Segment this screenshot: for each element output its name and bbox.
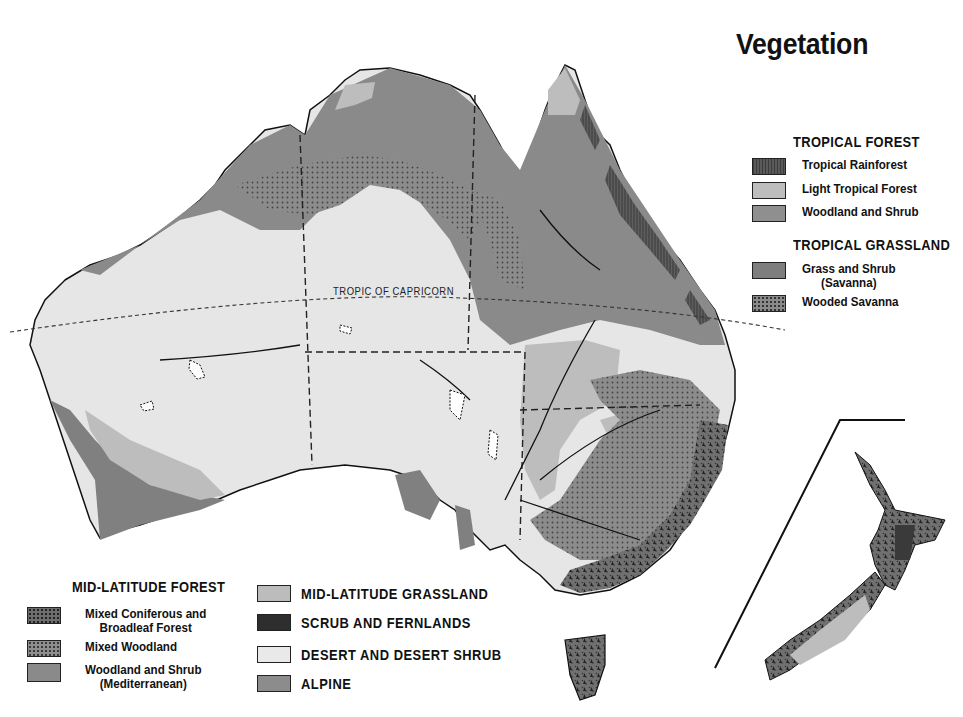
legend-label: SCRUB AND FERNLANDS xyxy=(301,614,471,631)
new-zealand-north-island xyxy=(855,452,945,590)
tropic-of-capricorn-label: TROPIC OF CAPRICORN xyxy=(333,285,454,297)
legend-item-alpine: ALPINE xyxy=(257,675,360,692)
legend-heading-tropical-forest: TROPICAL FOREST xyxy=(793,133,920,150)
swatch-tropical-rainforest xyxy=(752,158,786,175)
legend-label: Mixed Woodland xyxy=(85,640,177,654)
swatch-desert-and-desert-shrub xyxy=(257,646,291,663)
legend-label: Light Tropical Forest xyxy=(802,182,917,196)
swatch-woodland-shrub-mediterranean xyxy=(27,663,61,682)
swatch-mixed-woodland xyxy=(27,640,61,657)
map-title: Vegetation xyxy=(736,28,868,61)
legend-label: Woodland and Shrub xyxy=(802,205,919,219)
legend-label: DESERT AND DESERT SHRUB xyxy=(301,646,502,663)
swatch-alpine xyxy=(257,675,291,692)
legend-item-mixed-coniferous: Mixed Coniferous andBroadleaf Forest xyxy=(27,607,226,635)
new-zealand-south-island xyxy=(765,572,885,680)
legend-item-woodland-and-shrub: Woodland and Shrub xyxy=(752,205,938,222)
swatch-light-tropical-forest xyxy=(752,182,786,199)
swatch-mid-latitude-grassland xyxy=(257,585,291,602)
legend-item-desert-and-desert-shrub: DESERT AND DESERT SHRUB xyxy=(257,646,534,663)
legend-label: Grass and Shrub(Savanna) xyxy=(802,262,896,290)
legend-heading-tropical-grassland: TROPICAL GRASSLAND xyxy=(793,236,950,253)
legend-label: Tropical Rainforest xyxy=(802,158,907,172)
legend-item-mixed-woodland: Mixed Woodland xyxy=(27,640,192,657)
legend-heading-mid-latitude-forest: MID-LATITUDE FOREST xyxy=(72,578,225,595)
legend-item-woodland-shrub-mediterranean: Woodland and Shrub(Mediterranean) xyxy=(27,663,221,691)
swatch-grass-and-shrub xyxy=(752,262,786,279)
legend-item-grass-and-shrub: Grass and Shrub(Savanna) xyxy=(752,262,911,290)
legend-label: Wooded Savanna xyxy=(802,295,899,309)
legend-item-mid-latitude-grassland: MID-LATITUDE GRASSLAND xyxy=(257,585,519,602)
swatch-woodland-and-shrub xyxy=(752,205,786,222)
legend-item-tropical-rainforest: Tropical Rainforest xyxy=(752,158,924,175)
legend-label: ALPINE xyxy=(301,675,351,692)
legend-label: MID-LATITUDE GRASSLAND xyxy=(301,585,488,602)
swatch-wooded-savanna xyxy=(752,295,786,312)
legend-item-light-tropical-forest: Light Tropical Forest xyxy=(752,182,936,199)
swatch-mixed-coniferous xyxy=(27,607,61,624)
tasmania xyxy=(565,635,605,700)
swatch-scrub-and-fernlands xyxy=(257,614,291,631)
legend-item-scrub-and-fernlands: SCRUB AND FERNLANDS xyxy=(257,614,499,631)
legend-item-wooded-savanna: Wooded Savanna xyxy=(752,295,914,312)
legend-label: Mixed Coniferous andBroadleaf Forest xyxy=(85,607,206,635)
legend-label: Woodland and Shrub(Mediterranean) xyxy=(85,663,202,691)
